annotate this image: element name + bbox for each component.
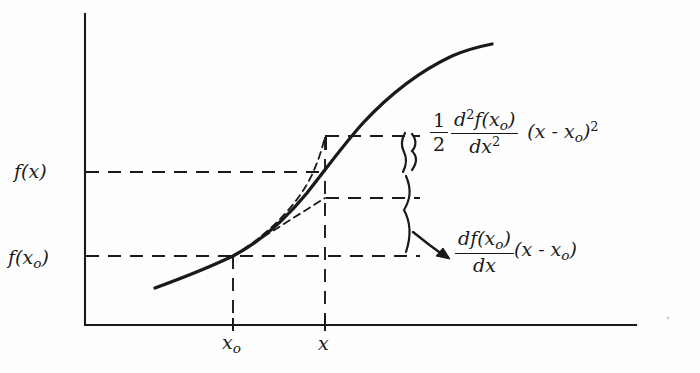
first-order-term-annotation: df(xo) dx (x - xo) bbox=[455, 228, 577, 275]
second-derivative-fraction: d2f(xo) dx2 bbox=[451, 108, 518, 157]
x-axis-label-x: x bbox=[318, 334, 329, 353]
first-derivative-denominator: dx bbox=[455, 254, 514, 276]
first-order-tail-subscript: o bbox=[561, 247, 569, 263]
one-half-denominator: 2 bbox=[430, 133, 448, 155]
first-order-arrow bbox=[413, 232, 450, 259]
one-half-fraction: 1 2 bbox=[430, 110, 448, 154]
first-derivative-fraction: df(xo) dx bbox=[455, 228, 514, 275]
second-order-brace-hook bbox=[412, 134, 416, 170]
second-order-brace-stem bbox=[402, 133, 406, 172]
axes-group bbox=[85, 14, 636, 325]
second-order-term-annotation: 1 2 d2f(xo) dx2 (x - xo)2 bbox=[430, 108, 599, 157]
second-order-tail-superscript: 2 bbox=[590, 119, 598, 134]
second-derivative-x0-subscript: o bbox=[500, 117, 508, 133]
x0-subscript: o bbox=[233, 340, 241, 356]
x-tick-group bbox=[233, 316, 325, 331]
second-order-tail-subscript: o bbox=[575, 128, 583, 144]
first-derivative-x0-subscript: o bbox=[495, 236, 503, 252]
quadratic-approximation-curve bbox=[233, 136, 325, 256]
second-derivative-denominator: dx2 bbox=[451, 134, 518, 156]
second-order-brace bbox=[402, 133, 416, 172]
first-derivative-numerator: df(xo) bbox=[455, 228, 514, 254]
first-order-arrow-head bbox=[436, 248, 450, 259]
first-order-tail: (x - xo) bbox=[514, 240, 577, 263]
first-order-brace bbox=[404, 176, 410, 252]
figure-canvas bbox=[0, 0, 700, 373]
second-derivative-numerator: d2f(xo) bbox=[451, 108, 518, 134]
taylor-expansion-figure: f(x) f(xo) xo x 1 2 d2f(xo) dx2 (x - xo)… bbox=[0, 0, 700, 373]
dx-squared-superscript: 2 bbox=[492, 134, 500, 149]
first-order-brace-curve bbox=[404, 176, 410, 252]
y-axis-label-fx0: f(xo) bbox=[8, 248, 49, 271]
scan-speck bbox=[667, 317, 670, 320]
x-axis-label-x0: xo bbox=[222, 333, 241, 356]
y-axis-label-fx: f(x) bbox=[14, 162, 47, 181]
second-order-tail: (x - xo)2 bbox=[527, 121, 598, 144]
one-half-numerator: 1 bbox=[430, 110, 448, 133]
guide-lines-group bbox=[86, 136, 420, 324]
